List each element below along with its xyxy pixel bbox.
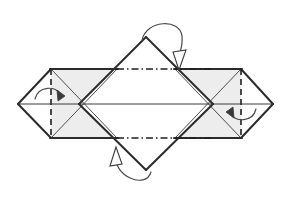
- origami-crease-pattern: Origami crease pattern fold step: [0, 0, 291, 203]
- fold-behind-arrow-bottom-head: [110, 147, 122, 166]
- origami-diagram-root: Origami crease pattern fold step: [0, 0, 291, 203]
